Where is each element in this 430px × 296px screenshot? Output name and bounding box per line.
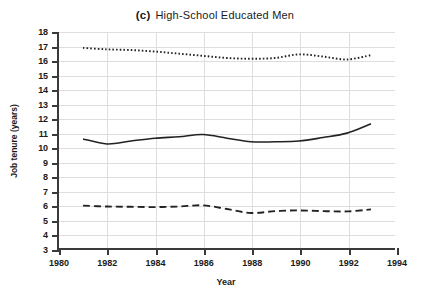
chart-title-text: High-School Educated Men — [155, 9, 294, 21]
y-axis-tick — [52, 221, 59, 223]
x-axis-tick — [107, 248, 109, 255]
series-line-dotted-upper — [83, 48, 371, 60]
y-axis-tick — [52, 134, 59, 136]
series-line-dashed-lower — [83, 205, 371, 213]
x-axis-tick — [156, 248, 158, 255]
x-axis-tick-label: 1980 — [49, 258, 69, 268]
y-axis-tick — [52, 32, 59, 34]
y-axis-tick — [52, 148, 59, 150]
series-layer — [59, 32, 395, 249]
y-axis-tick — [52, 235, 59, 237]
y-axis-tick — [52, 192, 59, 194]
y-axis-title: Job tenure (years) — [9, 104, 19, 178]
y-axis-tick-label: 11 — [39, 129, 48, 139]
x-axis-tick-label: 1982 — [97, 258, 117, 268]
x-axis-tick-label: 1988 — [242, 258, 262, 268]
y-axis-tick-label: 8 — [43, 172, 48, 182]
y-axis-tick — [52, 47, 59, 49]
y-axis-tick — [52, 76, 59, 78]
x-axis-tick-label: 1990 — [290, 258, 310, 268]
y-axis-tick — [52, 177, 59, 179]
y-axis-tick-label: 9 — [43, 158, 48, 168]
y-axis-tick — [52, 90, 59, 92]
y-axis-tick-label: 14 — [38, 85, 48, 95]
y-axis-tick — [52, 250, 59, 252]
x-axis-tick-label: 1994 — [387, 258, 407, 268]
x-axis-tick — [252, 248, 254, 255]
x-axis-tick-label: 1992 — [339, 258, 359, 268]
chart-title: (c)High-School Educated Men — [0, 9, 430, 21]
y-axis-tick-label: 16 — [38, 56, 48, 66]
x-axis-tick — [397, 248, 399, 255]
series-line-solid-middle — [83, 124, 371, 144]
y-axis-tick — [52, 105, 59, 107]
y-axis-tick — [52, 61, 59, 63]
y-axis-tick-label: 5 — [43, 216, 48, 226]
y-axis-tick-label: 17 — [38, 42, 48, 52]
y-axis-tick-label: 12 — [38, 114, 48, 124]
x-axis-tick — [300, 248, 302, 255]
y-axis-tick-label: 10 — [38, 143, 48, 153]
y-axis-tick-label: 6 — [43, 201, 48, 211]
x-axis-title: Year — [57, 277, 395, 287]
x-axis-tick — [59, 248, 61, 255]
x-axis-tick-label: 1986 — [194, 258, 214, 268]
x-axis-tick-label: 1984 — [146, 258, 166, 268]
chart-panel-tag: (c) — [136, 9, 151, 21]
y-axis-tick-label: 18 — [38, 27, 48, 37]
y-axis-tick-label: 4 — [43, 230, 48, 240]
y-axis-tick-label: 13 — [38, 100, 48, 110]
x-axis-tick — [204, 248, 206, 255]
y-axis-tick — [52, 163, 59, 165]
chart-figure: (c)High-School Educated Men Job tenure (… — [0, 0, 430, 296]
y-axis-tick — [52, 206, 59, 208]
plot-area: 1817161514131211109876543198019821984198… — [57, 32, 395, 250]
y-axis-tick-label: 7 — [43, 187, 48, 197]
y-axis-tick-label: 3 — [43, 245, 48, 255]
x-axis-tick — [349, 248, 351, 255]
y-axis-tick — [52, 119, 59, 121]
y-axis-tick-label: 15 — [38, 71, 48, 81]
